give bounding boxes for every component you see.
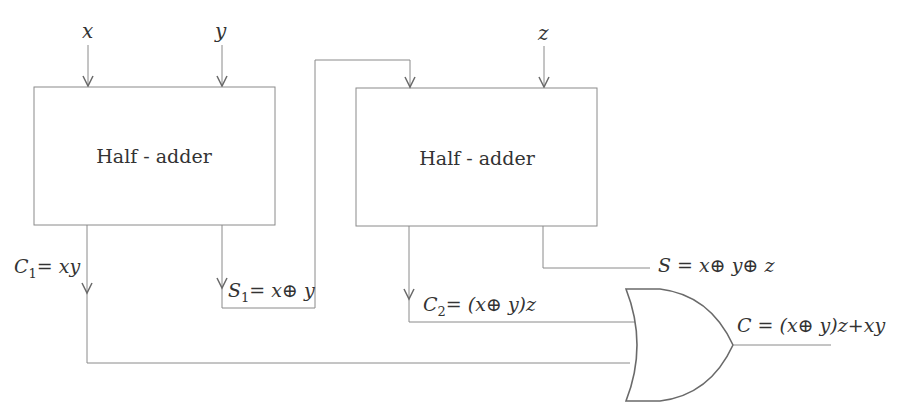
label-carry: C = (x⊕ y)z+xy: [737, 314, 885, 336]
wire-c1: [87, 225, 630, 363]
input-z-label: z: [537, 21, 549, 45]
input-x-label: x: [82, 19, 93, 43]
half-adder-1-label: Half - adder: [96, 145, 212, 167]
label-s1: S1= x⊕ y: [228, 279, 315, 305]
wire-s: [543, 226, 650, 268]
or-gate: [626, 289, 733, 401]
input-y-label: y: [214, 19, 227, 43]
full-adder-diagram: x y z Half - adder Half - adder C1= xy S…: [0, 0, 901, 413]
label-c2: C2= (x⊕ y)z: [423, 293, 537, 319]
label-sum: S = x⊕ y⊕ z: [658, 254, 775, 276]
label-c1: C1= xy: [14, 255, 81, 281]
half-adder-2-label: Half - adder: [419, 147, 535, 169]
